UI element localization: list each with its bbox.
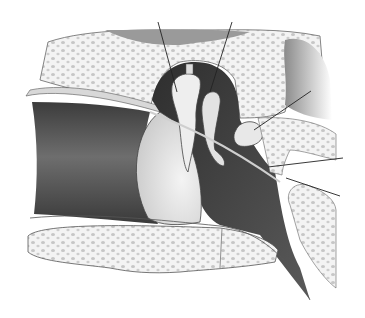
ear-illustration (0, 0, 365, 318)
ear-anatomy-figure (0, 0, 365, 318)
inner-ear-region (284, 39, 332, 120)
tendon (186, 64, 193, 74)
lower-temporal-bone (28, 226, 278, 273)
